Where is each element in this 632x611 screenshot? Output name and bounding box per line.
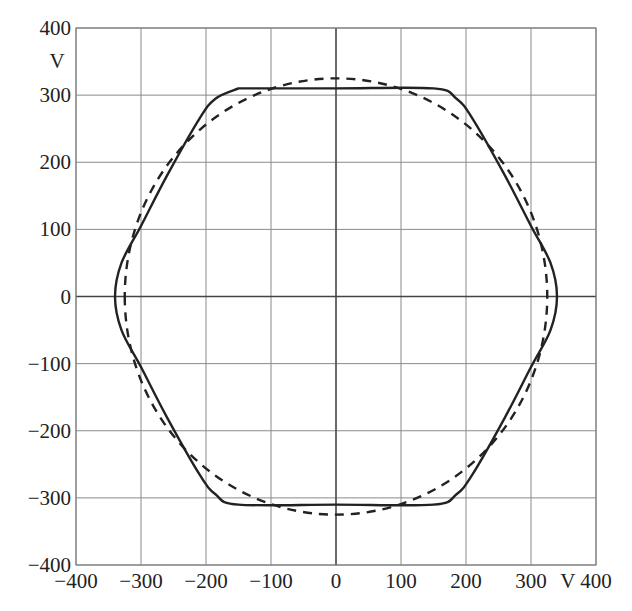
- y-tick-label: 100: [40, 217, 72, 241]
- x-tick-label: −300: [119, 569, 162, 593]
- y-tick-labels: −400−300−200−1000100200300400: [28, 16, 71, 577]
- x-tick-label: V 400: [560, 569, 612, 593]
- y-tick-label: −200: [28, 419, 71, 443]
- x-tick-label: 100: [385, 569, 417, 593]
- y-tick-label: 0: [61, 285, 72, 309]
- x-tick-label: 200: [450, 569, 482, 593]
- y-tick-label: 300: [40, 83, 72, 107]
- x-tick-label: 300: [515, 569, 547, 593]
- voltage-trajectory-chart: −400−300−200−1000100200300V 400 −400−300…: [0, 0, 632, 611]
- y-unit-label: V: [49, 49, 64, 73]
- y-tick-label: −100: [28, 352, 71, 376]
- y-tick-label: −400: [28, 553, 71, 577]
- y-tick-label: 200: [40, 150, 72, 174]
- y-tick-label: −300: [28, 486, 71, 510]
- axes-zero-lines: [76, 28, 596, 565]
- x-tick-label: 0: [331, 569, 342, 593]
- x-tick-label: −200: [184, 569, 227, 593]
- y-tick-label: 400: [40, 16, 72, 40]
- x-tick-label: −100: [249, 569, 292, 593]
- x-tick-labels: −400−300−200−1000100200300V 400: [54, 569, 611, 593]
